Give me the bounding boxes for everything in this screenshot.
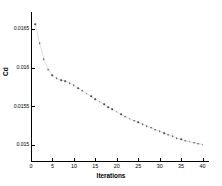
data-point bbox=[197, 143, 199, 145]
data-point bbox=[95, 98, 97, 100]
data-point bbox=[82, 90, 84, 92]
x-tick-label: 20 bbox=[114, 164, 120, 169]
data-point bbox=[129, 118, 131, 120]
data-point bbox=[172, 136, 174, 138]
data-point bbox=[150, 127, 152, 129]
series-line bbox=[31, 12, 209, 162]
data-point bbox=[112, 109, 114, 111]
x-tick-label: 35 bbox=[178, 164, 184, 169]
data-point bbox=[56, 78, 58, 80]
data-point bbox=[142, 123, 144, 125]
data-point bbox=[167, 134, 169, 136]
data-point bbox=[120, 113, 122, 115]
plot-area bbox=[31, 12, 209, 162]
data-point bbox=[103, 104, 105, 106]
x-tick-label: 5 bbox=[51, 164, 54, 169]
x-axis-title: Iterations bbox=[0, 172, 222, 179]
data-point bbox=[65, 80, 67, 82]
data-point bbox=[60, 79, 62, 81]
data-point bbox=[137, 122, 139, 124]
data-point bbox=[34, 24, 36, 26]
data-point bbox=[125, 116, 127, 118]
y-tick-label: 0.015 bbox=[17, 142, 29, 147]
data-point bbox=[47, 69, 49, 71]
data-point bbox=[193, 142, 195, 144]
data-point bbox=[163, 132, 165, 134]
data-point bbox=[202, 144, 204, 146]
data-point bbox=[99, 101, 101, 103]
x-tick-label: 25 bbox=[135, 164, 141, 169]
data-point bbox=[69, 82, 71, 84]
data-point bbox=[107, 106, 109, 108]
data-point bbox=[176, 137, 178, 139]
data-point bbox=[180, 139, 182, 141]
x-tick-label: 0 bbox=[30, 164, 33, 169]
y-tick-label: 0.016 bbox=[17, 65, 29, 70]
data-point bbox=[73, 85, 75, 87]
x-tick-label: 10 bbox=[71, 164, 77, 169]
data-point bbox=[39, 42, 41, 44]
data-point bbox=[189, 141, 191, 143]
y-axis-title: Cd bbox=[2, 67, 9, 76]
y-tick-label: 0.0165 bbox=[14, 26, 29, 31]
data-point bbox=[77, 87, 79, 89]
data-point bbox=[159, 130, 161, 132]
data-point bbox=[185, 140, 187, 142]
x-tick-label: 15 bbox=[92, 164, 98, 169]
data-point bbox=[86, 93, 88, 95]
data-point bbox=[90, 95, 92, 97]
data-point bbox=[146, 125, 148, 127]
data-point bbox=[155, 129, 157, 131]
x-tick-label: 40 bbox=[200, 164, 206, 169]
data-point bbox=[43, 58, 45, 60]
data-point bbox=[116, 111, 118, 113]
data-point bbox=[52, 75, 54, 77]
cd-convergence-chart: Cd 0.0150.01550.0160.0165 05101520253035… bbox=[0, 0, 222, 186]
y-tick-label: 0.0155 bbox=[14, 104, 29, 109]
data-point bbox=[133, 120, 135, 122]
x-tick-label: 30 bbox=[157, 164, 163, 169]
